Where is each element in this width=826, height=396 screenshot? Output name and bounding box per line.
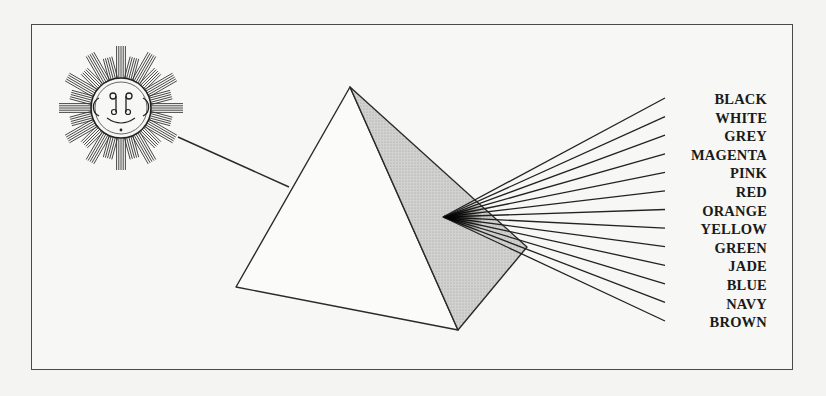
- colour-label-list: BLACK WHITE GREY MAGENTA PINK RED ORANGE…: [640, 90, 767, 332]
- colour-label-blue: BLUE: [640, 276, 767, 295]
- colour-label-white: WHITE: [640, 109, 767, 128]
- colour-label-red: RED: [640, 183, 767, 202]
- colour-label-green: GREEN: [640, 239, 767, 258]
- colour-label-jade: JADE: [640, 257, 767, 276]
- colour-label-brown: BROWN: [640, 313, 767, 332]
- incoming-light-ray: [178, 137, 289, 187]
- colour-label-orange: ORANGE: [640, 202, 767, 221]
- sun-face-icon: [59, 46, 183, 170]
- colour-label-black: BLACK: [640, 90, 767, 109]
- colour-label-yellow: YELLOW: [640, 220, 767, 239]
- colour-label-grey: GREY: [640, 127, 767, 146]
- spectrum-ray: [443, 117, 665, 217]
- colour-label-navy: NAVY: [640, 295, 767, 314]
- colour-label-pink: PINK: [640, 164, 767, 183]
- spectrum-ray: [443, 98, 665, 217]
- colour-label-magenta: MAGENTA: [640, 146, 767, 165]
